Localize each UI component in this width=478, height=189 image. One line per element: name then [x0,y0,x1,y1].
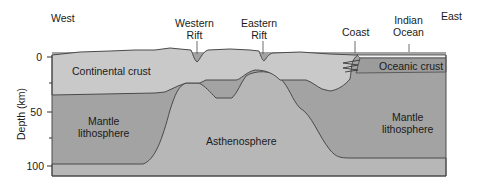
mantle-lithosphere-west-label: Mantle lithosphere [78,115,129,139]
coast-label: Coast [342,26,369,38]
depth-axis-label: Depth (km) [15,88,27,140]
asthenosphere-label: Asthenosphere [206,135,277,147]
continental-crust-label: Continental crust [72,65,151,77]
indian-ocean-label: Indian Ocean [393,14,424,38]
oceanic-crust-label: Oceanic crust [379,60,443,72]
depth-tick-100: 100 [14,160,44,172]
mantle-lithosphere-east-label: Mantle lithosphere [382,111,433,135]
ocean-water [357,55,446,58]
western-rift-label: Western Rift [175,17,214,41]
depth-tick-0: 0 [12,51,42,63]
east-label: East [441,10,462,22]
eastern-rift-label: Eastern Rift [241,17,277,41]
west-label: West [51,12,75,24]
